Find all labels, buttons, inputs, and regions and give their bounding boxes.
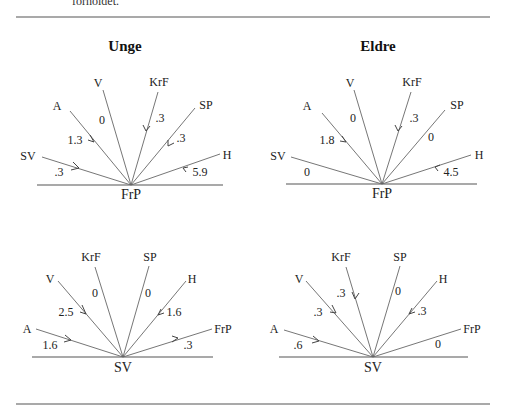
- value-frp: .3: [184, 338, 193, 352]
- ray-krf: [382, 92, 411, 184]
- node-v: V: [346, 76, 355, 90]
- value-h: .3: [418, 304, 427, 318]
- flow-diagram-figure: forholdet. Unge Eldre SV A V KrF SP H .3…: [0, 0, 507, 407]
- arrow-in-icon: [71, 162, 79, 170]
- ray-krf: [346, 267, 373, 357]
- diagram-unge-frp: SV A V KrF SP H .3 1.3 0 .3 .3 5.9 FrP: [20, 75, 231, 202]
- value-sv: 0: [304, 165, 310, 179]
- diagram-eldre-sv: A V KrF SP H FrP .6 .3 .3 0 .3 0 SV: [270, 250, 481, 375]
- arrow-in-icon: [158, 309, 164, 315]
- arrow-in-icon: [183, 167, 188, 172]
- node-sp: SP: [143, 250, 157, 264]
- ray-frp: [373, 329, 461, 357]
- node-a: A: [53, 99, 62, 113]
- value-frp: 0: [435, 337, 441, 351]
- ray-frp: [123, 329, 212, 357]
- node-a: A: [303, 99, 312, 113]
- node-a: A: [23, 322, 32, 336]
- ray-v: [103, 90, 131, 185]
- ray-h: [373, 281, 437, 357]
- value-a: 1.8: [320, 133, 335, 147]
- node-frp: FrP: [214, 322, 232, 336]
- value-h: 4.5: [444, 165, 459, 179]
- ray-h: [123, 281, 186, 357]
- node-krf: KrF: [81, 250, 101, 264]
- value-a: 1.6: [43, 338, 58, 352]
- caption-fragment: forholdet.: [72, 0, 119, 8]
- node-v: V: [94, 76, 103, 90]
- hub-frp: FrP: [121, 187, 141, 202]
- node-v: V: [295, 272, 304, 286]
- value-krf: .3: [337, 286, 346, 300]
- node-krf: KrF: [402, 75, 422, 89]
- arrow-in-icon: [143, 125, 150, 131]
- value-sp: 0: [428, 130, 434, 144]
- hub-sv: SV: [114, 360, 132, 375]
- value-sv: .3: [55, 165, 64, 179]
- value-sp: 0: [145, 286, 151, 300]
- node-h: H: [223, 148, 232, 162]
- ray-sp: [373, 266, 400, 357]
- value-v: 0: [350, 111, 356, 125]
- ray-krf: [95, 267, 123, 357]
- value-a: .6: [294, 338, 303, 352]
- node-h: H: [439, 272, 448, 286]
- value-v: 2.5: [59, 305, 74, 319]
- node-v: V: [46, 272, 55, 286]
- value-v: .3: [314, 305, 323, 319]
- arrow-in-icon: [80, 305, 86, 314]
- value-h: 5.9: [193, 165, 208, 179]
- hub-sv: SV: [364, 360, 382, 375]
- node-h: H: [188, 272, 197, 286]
- title-unge: Unge: [108, 38, 142, 54]
- node-sv: SV: [270, 149, 286, 163]
- ray-v: [354, 90, 382, 184]
- arrow-in-icon: [435, 165, 440, 171]
- node-h: H: [475, 148, 484, 162]
- diagram-unge-sv: A V KrF SP H FrP 1.6 2.5 0 0 1.6 .3 SV: [23, 250, 232, 375]
- node-frp: FrP: [463, 322, 481, 336]
- value-krf: .3: [156, 111, 165, 125]
- node-sp: SP: [199, 98, 213, 112]
- value-sp: 0: [395, 284, 401, 298]
- ray-krf: [131, 92, 158, 185]
- ray-v: [58, 281, 123, 357]
- node-sv: SV: [20, 149, 36, 163]
- diagram-eldre-frp: SV A V KrF SP H 0 1.8 0 .3 0 4.5 FrP: [270, 75, 483, 201]
- arrow-in-icon: [168, 140, 174, 146]
- node-a: A: [270, 322, 279, 336]
- value-h: 1.6: [167, 305, 182, 319]
- node-krf: KrF: [331, 250, 351, 264]
- ray-sp: [123, 266, 149, 357]
- node-krf: KrF: [149, 75, 169, 89]
- node-sp: SP: [393, 250, 407, 264]
- node-sp: SP: [450, 98, 464, 112]
- value-krf: .3: [410, 111, 419, 125]
- value-krf: 0: [92, 286, 98, 300]
- title-eldre: Eldre: [360, 38, 396, 54]
- arrow-in-icon: [352, 292, 359, 299]
- value-a: 1.3: [68, 133, 83, 147]
- value-sp: .3: [177, 131, 186, 145]
- value-v: 0: [99, 113, 105, 127]
- arrow-in-icon: [340, 136, 346, 142]
- hub-frp: FrP: [372, 186, 392, 201]
- arrow-in-icon: [395, 125, 402, 131]
